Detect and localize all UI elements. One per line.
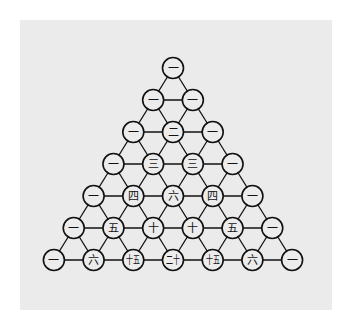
number-node: 一 bbox=[202, 122, 223, 143]
number-node: 一 bbox=[103, 154, 124, 175]
node-numeral: 五 bbox=[227, 222, 238, 235]
number-node: 四 bbox=[123, 186, 144, 207]
number-node: 六 bbox=[83, 250, 104, 271]
number-node: 一 bbox=[63, 218, 84, 239]
number-node: 一 bbox=[143, 90, 164, 111]
node-numeral: 十 bbox=[148, 221, 159, 235]
number-node: 五 bbox=[103, 218, 124, 239]
number-node: 十五 bbox=[123, 250, 144, 271]
number-node: 四 bbox=[202, 186, 223, 207]
node-numeral: 一 bbox=[207, 126, 218, 139]
number-node: 五 bbox=[222, 218, 243, 239]
node-numeral: 一 bbox=[48, 254, 59, 267]
node-numeral: 二十 bbox=[166, 253, 180, 267]
node-numeral: 一 bbox=[88, 190, 99, 203]
number-node: 一 bbox=[282, 250, 303, 271]
number-node: 十 bbox=[182, 218, 203, 239]
number-node: 一 bbox=[163, 58, 184, 79]
node-numeral: 一 bbox=[187, 94, 198, 107]
node-numeral: 一 bbox=[267, 222, 278, 235]
node-numeral: 十五 bbox=[206, 253, 220, 267]
node-numeral: 一 bbox=[287, 254, 298, 267]
number-node: 一 bbox=[222, 154, 243, 175]
pascal-triangle-diagram: 一一一一二一一三三一一四六四一一五十十五一一六十五二十十五六一 bbox=[0, 0, 352, 330]
node-numeral: 一 bbox=[168, 62, 179, 75]
node-numeral: 一 bbox=[148, 94, 159, 107]
number-node: 一 bbox=[262, 218, 283, 239]
number-node: 六 bbox=[163, 186, 184, 207]
node-numeral: 六 bbox=[168, 190, 179, 203]
node-numeral: 三 bbox=[148, 158, 159, 171]
number-node: 二 bbox=[163, 122, 184, 143]
node-numeral: 十 bbox=[187, 221, 198, 235]
number-node: 一 bbox=[83, 186, 104, 207]
node-numeral: 三 bbox=[187, 158, 198, 171]
number-node: 一 bbox=[182, 90, 203, 111]
number-node: 十 bbox=[143, 218, 164, 239]
node-numeral: 一 bbox=[128, 126, 139, 139]
node-numeral: 一 bbox=[247, 190, 258, 203]
number-node: 六 bbox=[242, 250, 263, 271]
number-node: 三 bbox=[143, 154, 164, 175]
node-numeral: 六 bbox=[88, 254, 99, 267]
number-node: 三 bbox=[182, 154, 203, 175]
number-node: 一 bbox=[123, 122, 144, 143]
node-numeral: 四 bbox=[128, 190, 139, 203]
number-node: 二十 bbox=[163, 250, 184, 271]
node-numeral: 一 bbox=[108, 158, 119, 171]
number-node: 一 bbox=[43, 250, 64, 271]
node-numeral: 二 bbox=[168, 126, 179, 139]
number-node: 十五 bbox=[202, 250, 223, 271]
node-numeral: 四 bbox=[207, 190, 218, 203]
node-numeral: 一 bbox=[227, 158, 238, 171]
node-numeral: 五 bbox=[108, 222, 119, 235]
node-numeral: 十五 bbox=[126, 253, 140, 267]
triangle-edges bbox=[54, 68, 292, 260]
node-numeral: 六 bbox=[247, 254, 258, 267]
node-numeral: 一 bbox=[68, 222, 79, 235]
number-node: 一 bbox=[242, 186, 263, 207]
